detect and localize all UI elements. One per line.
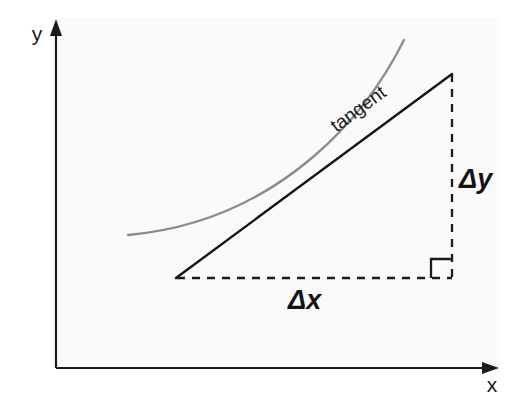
x-axis-label: x <box>487 373 498 396</box>
figure-canvas: y x tangent Δy Δx <box>0 0 526 407</box>
delta-y-label: Δy <box>458 164 494 194</box>
delta-x-label: Δx <box>287 285 322 315</box>
y-axis-label: y <box>32 22 43 45</box>
plot-panel <box>58 18 500 370</box>
tangent-slope-figure: y x tangent Δy Δx <box>0 0 526 407</box>
